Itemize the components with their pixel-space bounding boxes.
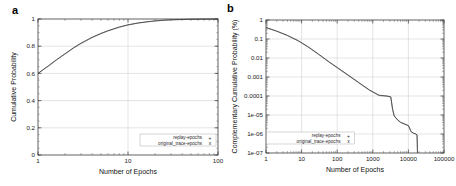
panel-a: a 11010000.20.40.60.81Number of EpochsCu… [0, 0, 228, 186]
y-tick-label: 0.2 [26, 124, 35, 131]
x-tick-label: 10000 [400, 155, 418, 162]
x-tick-label: 1 [36, 157, 40, 164]
x-tick-label: 1 [264, 155, 268, 162]
x-tick-label: 1000 [366, 155, 380, 162]
x-tick-label: 100 [332, 155, 343, 162]
x-tick-label: 10 [125, 157, 132, 164]
x-axis-title: Number of Epochs [326, 166, 384, 174]
legend-label-replay-epochs: replay-epochs [173, 135, 203, 140]
y-tick-label: 0.0001 [244, 92, 263, 99]
x-tick-label: 100000 [434, 155, 455, 162]
y-axis-title: Cumulative Probability [10, 52, 18, 122]
y-tick-label: 1 [32, 15, 36, 22]
panel-a-plot: 11010000.20.40.60.81Number of EpochsCumu… [0, 0, 228, 186]
x-tick-label: 10 [298, 155, 305, 162]
panel-b-plot: 11010010001000010000010.10.010.0010.0001… [228, 0, 456, 186]
figure-container: a 11010000.20.40.60.81Number of EpochsCu… [0, 0, 456, 186]
panel-a-label: a [12, 4, 18, 16]
y-tick-label: 1e-07 [247, 149, 263, 156]
x-tick-label: 100 [213, 157, 224, 164]
y-axis-title: Complementary Cumulative Probability (%) [231, 20, 239, 154]
y-tick-label: 0.1 [254, 35, 263, 42]
y-tick-label: 0.001 [248, 73, 264, 80]
y-tick-label: 0.8 [26, 42, 35, 49]
y-tick-label: 0 [32, 151, 36, 158]
y-tick-label: 0.4 [26, 97, 35, 104]
y-tick-label: 1e-05 [247, 111, 263, 118]
panel-b: 11010010001000010000010.10.010.0010.0001… [228, 0, 456, 186]
legend-label-original_trace-epochs: original_trace-epochs [297, 139, 342, 144]
legend-label-original_trace-epochs: original_trace-epochs [158, 141, 203, 146]
y-tick-label: 1e-06 [247, 130, 263, 137]
y-tick-label: 1 [260, 16, 264, 23]
y-tick-label: 0.01 [251, 54, 264, 61]
y-tick-label: 0.6 [26, 70, 35, 77]
legend-label-replay-epochs: replay-epochs [312, 133, 342, 138]
x-axis-title: Number of Epochs [99, 168, 157, 176]
panel-b-label: b [227, 2, 234, 14]
